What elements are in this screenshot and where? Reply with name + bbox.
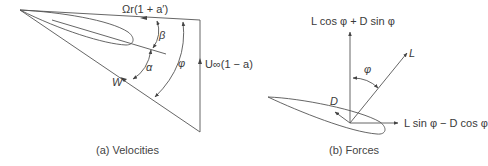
axial-arrowhead: [198, 58, 202, 64]
chord-line: [52, 20, 166, 54]
caption-velocities: (a) Velocities: [96, 145, 159, 156]
lift-arrow: [350, 53, 407, 123]
drag-label: D: [330, 96, 338, 107]
axial-velocity-label: U∞(1 − a): [205, 59, 253, 70]
drag-arrow: [335, 112, 350, 123]
normal-force-label: L cos φ + D sin φ: [311, 16, 395, 27]
phi-label-b: φ: [364, 64, 371, 75]
tangential-velocity-label: Ωr(1 + a′): [122, 4, 168, 15]
alpha-label: α: [146, 62, 152, 73]
relative-velocity-label: W: [112, 77, 122, 88]
beta-arc: [153, 21, 159, 48]
airfoil-b: [268, 97, 385, 134]
lift-label: L: [409, 48, 415, 59]
beta-label: β: [159, 30, 165, 41]
velocity-triangle: [20, 10, 200, 132]
caption-forces: (b) Forces: [329, 145, 379, 156]
tangential-velocity-line: [20, 10, 200, 20]
tangential-force-label: L sin φ − D cos φ: [404, 118, 488, 129]
velocity-arrows: [120, 16, 202, 82]
relative-velocity-line: [20, 10, 200, 132]
phi-label-a: φ: [178, 58, 185, 69]
phi-arc-b: [353, 78, 378, 88]
diagram-canvas: [0, 0, 488, 166]
